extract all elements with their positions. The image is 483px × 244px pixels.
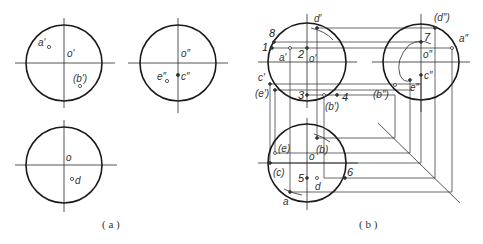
number-6: 6 xyxy=(347,166,354,178)
point-e-double-prime xyxy=(165,79,168,82)
label-o: o xyxy=(66,152,72,163)
number-5: 5 xyxy=(298,172,305,184)
point-e xyxy=(274,152,277,155)
label-c-prime: c′ xyxy=(258,72,266,83)
number-8: 8 xyxy=(269,27,276,39)
a-side-view: o″ e″ c″ xyxy=(128,18,228,113)
number-2: 2 xyxy=(297,48,304,60)
label-a: a xyxy=(283,196,289,207)
point-d-double-prime xyxy=(434,27,437,30)
b-side-view: (d″) 7 a″ o″ c″ e″ (b″) xyxy=(372,12,470,112)
point-a-prime xyxy=(289,47,292,50)
point-b xyxy=(316,137,319,140)
label-d-double-prime: (d″) xyxy=(434,12,450,23)
point-4 xyxy=(336,94,339,97)
number-4: 4 xyxy=(342,91,348,103)
label-e-prime: (e′) xyxy=(255,88,269,99)
point-a-prime xyxy=(47,45,50,48)
label-c-double-prime: c″ xyxy=(424,70,433,81)
label-a-prime: a′ xyxy=(279,52,288,63)
point-e-prime xyxy=(274,89,277,92)
projection-diagram: a′ o′ (b′) o″ e″ c″ o d ( a ) xyxy=(0,0,483,244)
point-7 xyxy=(420,41,423,44)
point-a-double-prime xyxy=(451,47,454,50)
label-o-double-prime: o″ xyxy=(423,49,433,60)
label-b-prime: (b′) xyxy=(73,73,87,84)
label-a-prime: a′ xyxy=(38,37,47,48)
label-b: (b) xyxy=(316,144,328,155)
label-a-double-prime: a″ xyxy=(459,33,469,44)
point-b-prime xyxy=(78,84,81,87)
point-5 xyxy=(306,177,309,180)
label-b-prime: (b′) xyxy=(325,101,339,112)
point-d xyxy=(316,177,319,180)
a-top-view: o d xyxy=(15,120,117,212)
label-d: d xyxy=(75,175,81,186)
label-e: (e) xyxy=(278,143,290,154)
point-3 xyxy=(306,94,309,97)
number-3: 3 xyxy=(298,89,305,101)
number-7: 7 xyxy=(424,31,431,43)
point-1 xyxy=(271,47,274,50)
figure-b: d′ 8 1 a′ 2 o′ c′ (e′) 3 (b′) 4 xyxy=(255,12,470,231)
a-front-view: a′ o′ (b′) xyxy=(15,18,115,108)
label-d-prime: d′ xyxy=(314,13,323,24)
point-6 xyxy=(344,177,347,180)
point-d-prime xyxy=(316,27,319,30)
point-c xyxy=(269,162,272,165)
label-c-double-prime: c″ xyxy=(181,71,190,82)
label-c: (c) xyxy=(273,167,285,178)
b-top-view: (b) (e) o (c) 5 d 6 a xyxy=(258,118,358,210)
caption-a: ( a ) xyxy=(102,218,120,231)
caption-b: ( b ) xyxy=(359,218,378,231)
point-a xyxy=(289,191,292,194)
point-c-prime xyxy=(269,83,272,86)
label-o-double-prime: o″ xyxy=(181,48,191,59)
point-e-double-prime xyxy=(409,79,412,82)
point-2 xyxy=(306,47,309,50)
point-b-prime xyxy=(323,94,326,97)
label-o: o xyxy=(309,151,315,162)
point-b-double-prime xyxy=(394,84,397,87)
label-e-double-prime: e″ xyxy=(410,82,420,93)
point-d xyxy=(70,177,73,180)
label-o-prime: o′ xyxy=(67,48,76,59)
figure-a: a′ o′ (b′) o″ e″ c″ o d ( a ) xyxy=(15,18,228,231)
number-1: 1 xyxy=(262,41,268,53)
point-8 xyxy=(273,41,276,44)
label-d: d xyxy=(315,181,321,192)
point-c-double-prime xyxy=(420,74,423,77)
label-o-prime: o′ xyxy=(309,53,318,64)
label-b-double-prime: (b″) xyxy=(373,89,389,100)
point-c-double-prime xyxy=(176,73,179,76)
